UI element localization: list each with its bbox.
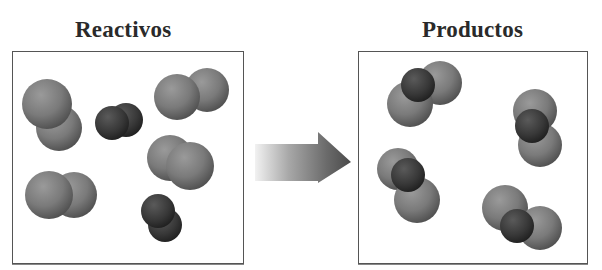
dark-atom-icon bbox=[500, 209, 534, 243]
dark-atom-icon bbox=[141, 194, 175, 228]
reaction-arrow-icon bbox=[255, 132, 351, 183]
dark-atom-icon bbox=[391, 158, 425, 192]
light-atom-icon bbox=[166, 142, 214, 190]
product-molecule bbox=[377, 148, 440, 223]
product-molecules bbox=[377, 61, 562, 250]
product-molecule bbox=[482, 185, 562, 250]
reactant-molecule bbox=[22, 79, 82, 151]
light-atom-icon bbox=[25, 171, 73, 219]
light-atom-icon bbox=[22, 79, 72, 129]
dark-atom-icon bbox=[515, 109, 549, 143]
reaction-diagram bbox=[0, 0, 602, 270]
reactant-molecule bbox=[25, 171, 97, 219]
light-atom-icon bbox=[154, 74, 200, 120]
reactant-molecule bbox=[154, 68, 229, 120]
reactant-molecule bbox=[147, 135, 214, 190]
dark-atom-icon bbox=[95, 106, 129, 140]
reactant-molecule bbox=[141, 194, 182, 242]
dark-atom-icon bbox=[401, 68, 435, 102]
reactant-molecules bbox=[22, 68, 229, 242]
reactant-molecule bbox=[95, 103, 143, 140]
product-molecule bbox=[387, 61, 462, 127]
product-molecule bbox=[513, 89, 562, 167]
